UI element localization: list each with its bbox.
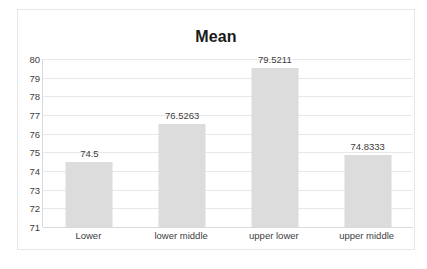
y-axis-tick-labels: 80797877767574737271 (18, 59, 40, 227)
y-axis-tick-label: 79 (18, 72, 40, 83)
y-axis-tick-label: 74 (18, 166, 40, 177)
x-axis-category-labels: Lowerlower middleupper lowerupper middle (42, 230, 413, 248)
bar-slot: 74.5 (43, 59, 136, 227)
y-axis-tick-label: 73 (18, 184, 40, 195)
x-axis-tick-label: Lower (42, 230, 135, 241)
plot-area: 74.576.526379.521174.8333 (42, 59, 413, 227)
bar[interactable] (159, 124, 206, 227)
bar[interactable] (251, 68, 298, 227)
x-axis-line (43, 227, 413, 228)
x-axis-tick-label: lower middle (135, 230, 228, 241)
x-axis-tick-label: upper middle (320, 230, 413, 241)
bar[interactable] (66, 162, 113, 227)
plot-wrapper: 80797877767574737271 74.576.526379.52117… (18, 10, 414, 249)
y-axis-tick-label: 77 (18, 110, 40, 121)
chart-container: Mean 80797877767574737271 74.576.526379.… (17, 9, 415, 250)
y-axis-tick-label: 72 (18, 203, 40, 214)
bar-slot: 76.5263 (136, 59, 229, 227)
bar[interactable] (344, 155, 391, 227)
bar-value-label: 74.8333 (350, 141, 384, 152)
x-axis-tick-label: upper lower (228, 230, 321, 241)
y-axis-tick-label: 75 (18, 147, 40, 158)
bar-series: 74.576.526379.521174.8333 (43, 59, 413, 227)
bar-value-label: 79.5211 (258, 54, 292, 65)
bar-value-label: 74.5 (80, 148, 99, 159)
bar-slot: 74.8333 (321, 59, 414, 227)
bar-value-label: 76.5263 (165, 110, 199, 121)
y-axis-tick-label: 80 (18, 54, 40, 65)
bar-slot: 79.5211 (229, 59, 322, 227)
y-axis-tick-label: 71 (18, 222, 40, 233)
y-axis-tick-label: 76 (18, 128, 40, 139)
y-axis-tick-label: 78 (18, 91, 40, 102)
